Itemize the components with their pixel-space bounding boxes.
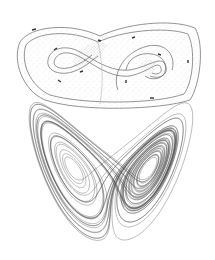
figure-canvas [0,0,215,260]
attractor-trajectory [29,103,193,241]
lorenz-attractor [29,103,193,241]
lorenz-figure [0,0,215,260]
template-diagram [17,23,200,108]
